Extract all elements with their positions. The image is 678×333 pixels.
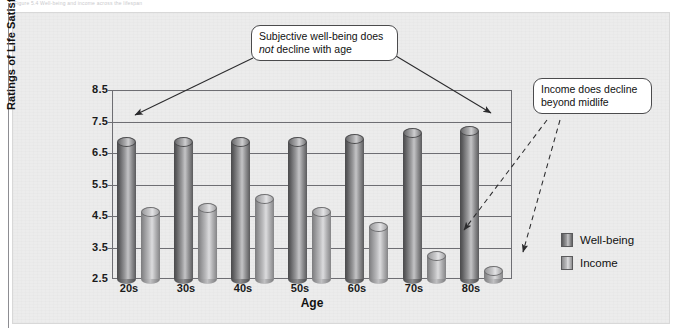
bar-income-50s — [312, 207, 331, 279]
y-axis-title: Ratings of Life Satisfaction, Income — [5, 0, 17, 110]
bar-well-being-60s — [345, 134, 364, 279]
figure-top-caption: Figure 5.4 Well-being and income across … — [14, 0, 214, 8]
callout-well-being-emphasis: not — [259, 43, 274, 55]
bar-income-20s — [141, 207, 160, 279]
x-axis-title: Age — [112, 296, 512, 310]
y-axis-tick-labels: 8.5 7.5 6.5 5.5 4.5 3.5 2.5 — [70, 90, 108, 279]
callout-well-being-text-before: Subjective well-being does — [259, 30, 383, 42]
bar-income-70s — [427, 251, 446, 279]
bar-income-40s — [255, 194, 274, 279]
legend-swatch-well-being-icon — [561, 233, 573, 247]
y-tick-label: 5.5 — [74, 178, 108, 190]
bar-group-70s — [403, 90, 446, 279]
bar-well-being-50s — [288, 137, 307, 279]
bar-income-30s — [198, 203, 217, 279]
chart-legend: Well-being Income — [561, 230, 634, 276]
y-tick-label: 7.5 — [74, 115, 108, 127]
legend-label-income: Income — [580, 257, 618, 269]
bar-well-being-80s — [460, 126, 479, 279]
bar-groups — [112, 90, 512, 279]
plot-area: 20s 30s 40s 50s 60s 70s 80s — [112, 90, 512, 279]
bar-well-being-70s — [403, 128, 422, 279]
y-tick-label: 6.5 — [74, 146, 108, 158]
x-tick-label-20s: 20s — [99, 282, 159, 294]
bar-income-80s — [484, 266, 503, 279]
bar-group-50s — [288, 90, 331, 279]
bar-well-being-40s — [231, 137, 250, 279]
callout-well-being: Subjective well-being does not decline w… — [251, 25, 398, 61]
bar-group-80s — [460, 90, 503, 279]
callout-income: Income does decline beyond midlife — [533, 78, 652, 114]
y-tick-label: 8.5 — [74, 83, 108, 95]
x-tick-label-30s: 30s — [156, 282, 216, 294]
y-tick-label: 3.5 — [74, 241, 108, 253]
bar-group-20s — [117, 90, 160, 279]
callout-income-text: Income does decline beyond midlife — [541, 83, 637, 108]
bar-well-being-20s — [117, 137, 136, 279]
legend-label-well-being: Well-being — [580, 234, 634, 246]
y-tick-label: 4.5 — [74, 209, 108, 221]
legend-item-well-being: Well-being — [561, 230, 634, 249]
figure-container: Figure 5.4 Well-being and income across … — [0, 0, 678, 333]
bar-well-being-30s — [174, 137, 193, 279]
x-tick-label-40s: 40s — [213, 282, 273, 294]
bar-income-60s — [369, 222, 388, 279]
x-tick-label-70s: 70s — [384, 282, 444, 294]
callout-well-being-text-after: decline with age — [274, 43, 352, 55]
x-tick-label-80s: 80s — [441, 282, 501, 294]
x-tick-label-60s: 60s — [327, 282, 387, 294]
legend-item-income: Income — [561, 253, 634, 272]
x-tick-label-50s: 50s — [270, 282, 330, 294]
bar-group-60s — [345, 90, 388, 279]
bar-group-30s — [174, 90, 217, 279]
bar-group-40s — [231, 90, 274, 279]
legend-swatch-income-icon — [561, 256, 573, 270]
